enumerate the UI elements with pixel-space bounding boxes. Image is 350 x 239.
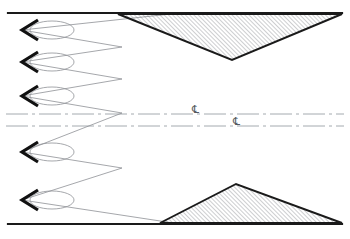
technical-drawing-canvas: ℄ ℄: [0, 0, 350, 239]
centerline-symbol-upper: ℄: [191, 103, 199, 115]
drawing-surface: ℄ ℄: [0, 0, 350, 239]
centerline-symbol-lower: ℄: [232, 115, 240, 127]
